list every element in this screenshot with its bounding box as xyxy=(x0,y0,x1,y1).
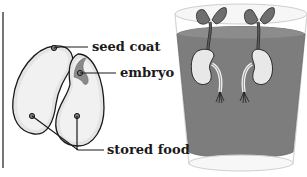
label-stored-food: stored food xyxy=(107,143,190,156)
label-seed-coat: seed coat xyxy=(92,40,161,53)
label-embryo: embryo xyxy=(120,66,174,79)
diagram: seed coat embryo stored food xyxy=(0,0,307,177)
water xyxy=(177,27,305,159)
glass-of-water xyxy=(175,4,307,171)
